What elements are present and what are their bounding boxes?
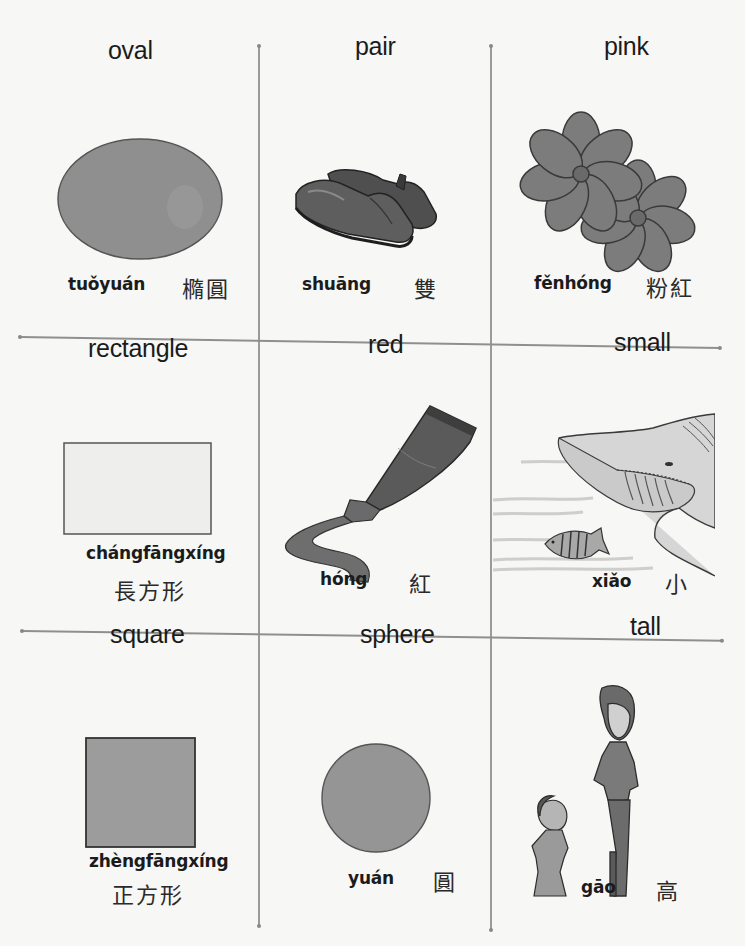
card-pinyin: xiǎo — [592, 571, 631, 591]
card-hanzi: 長方形 — [114, 573, 186, 605]
card-hanzi: 粉紅 — [646, 270, 694, 302]
card-pinyin: yuán — [348, 868, 394, 888]
card-word: pink — [604, 32, 649, 61]
card-hanzi: 橢圓 — [182, 271, 230, 303]
tall-and-short-people-icon — [520, 682, 650, 904]
card-hanzi: 正方形 — [112, 877, 184, 909]
flashcard-page: oval tuǒyuán 橢圓 pair shuāng 雙 — [0, 0, 745, 946]
card-word: pair — [355, 32, 396, 61]
card-pinyin: hóng — [320, 569, 367, 589]
grid-divider-vertical-2 — [490, 46, 492, 930]
circle-shape-icon — [320, 742, 432, 854]
card-pinyin: fěnhóng — [534, 273, 612, 293]
card-word: tall — [630, 612, 661, 641]
shoes-icon — [288, 162, 438, 252]
card-word: small — [614, 328, 671, 357]
card-hanzi: 小 — [665, 566, 689, 598]
card-hanzi: 圓 — [433, 864, 457, 896]
card-word: sphere — [360, 620, 435, 649]
card-word: rectangle — [88, 334, 188, 363]
card-pinyin: chángfāngxíng — [86, 543, 226, 563]
card-word: oval — [108, 36, 153, 65]
card-hanzi: 高 — [656, 873, 680, 905]
card-pinyin: zhèngfāngxíng — [89, 851, 228, 871]
fish-and-shark-icon — [493, 404, 715, 580]
card-pinyin: shuāng — [302, 274, 371, 294]
rectangle-shape-icon — [63, 442, 213, 536]
card-pinyin: tuǒyuán — [68, 274, 145, 294]
square-shape-icon — [85, 737, 197, 849]
card-hanzi: 紅 — [409, 566, 433, 598]
card-word: square — [110, 620, 185, 649]
card-word: red — [368, 330, 403, 359]
card-pinyin: gāo — [581, 877, 616, 897]
oval-shape-icon — [55, 137, 225, 261]
paint-tube-icon — [280, 398, 480, 584]
grid-divider-vertical-1 — [258, 46, 260, 926]
card-hanzi: 雙 — [414, 271, 438, 303]
flowers-icon — [518, 108, 704, 276]
